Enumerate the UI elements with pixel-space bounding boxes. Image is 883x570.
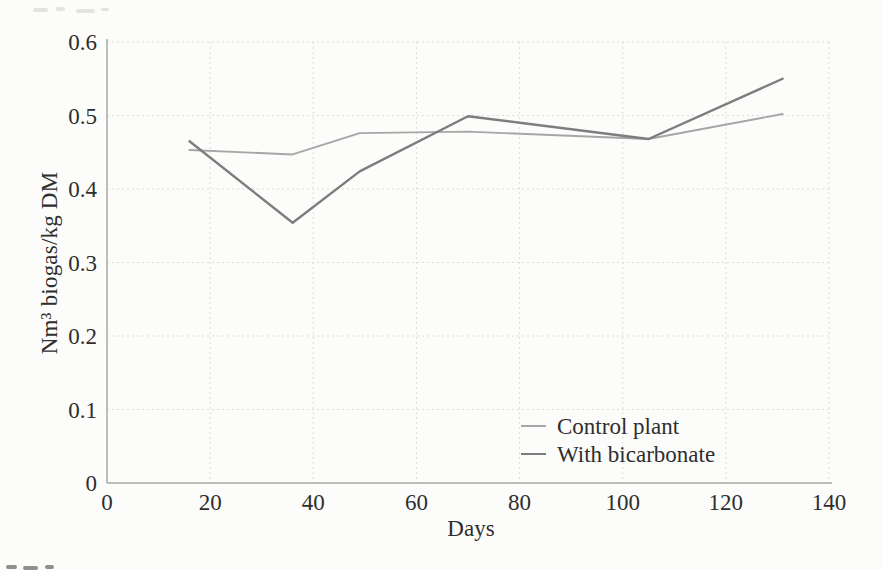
x-tick-label: 0 — [101, 490, 113, 515]
y-tick-label: 0 — [86, 471, 98, 496]
chart-legend: Control plant With bicarbonate — [521, 412, 715, 468]
chart-canvas: 00.10.20.30.40.50.6020406080100120140 — [0, 0, 883, 570]
y-axis-title: Nm³ biogas/kg DM — [37, 172, 63, 355]
control-plant-line-swatch — [521, 425, 546, 427]
x-tick-label: 60 — [405, 490, 428, 515]
scan-smudge — [76, 9, 95, 13]
x-tick-label: 40 — [302, 490, 325, 515]
x-tick-label: 80 — [508, 490, 531, 515]
x-tick-label: 120 — [709, 490, 744, 515]
y-tick-label: 0.4 — [68, 177, 97, 202]
legend-label-control-plant: Control plant — [557, 415, 679, 438]
scan-smudge — [33, 8, 48, 12]
cutoff-caption-edge — [6, 565, 17, 569]
y-tick-label: 0.2 — [68, 324, 97, 349]
control-plant-line — [190, 114, 783, 154]
y-tick-label: 0.5 — [68, 104, 97, 129]
y-tick-label: 0.3 — [68, 251, 97, 276]
with-bicarbonate-line-swatch — [521, 453, 546, 455]
scan-smudge — [101, 8, 109, 11]
legend-item-with-bicarbonate: With bicarbonate — [521, 440, 715, 468]
x-tick-label: 20 — [199, 490, 222, 515]
cutoff-caption-edge — [45, 565, 54, 569]
scan-smudge — [56, 7, 65, 11]
legend-item-control-plant: Control plant — [521, 412, 715, 440]
x-tick-label: 140 — [812, 490, 847, 515]
legend-label-with-bicarbonate: With bicarbonate — [557, 443, 715, 466]
x-axis-title: Days — [447, 516, 494, 542]
x-tick-label: 100 — [605, 490, 640, 515]
cutoff-caption-edge — [23, 566, 38, 570]
biogas-yield-chart: 00.10.20.30.40.50.6020406080100120140 Nm… — [0, 0, 883, 570]
y-tick-label: 0.1 — [68, 398, 97, 423]
y-tick-label: 0.6 — [68, 30, 97, 55]
with-bicarbonate-line — [190, 79, 783, 223]
